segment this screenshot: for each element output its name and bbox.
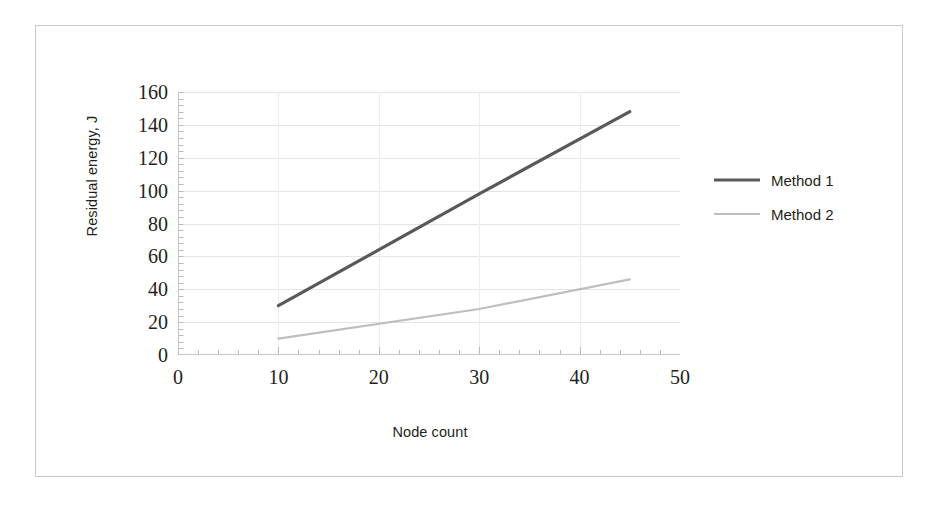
legend-item-label: Method 2 [771, 206, 834, 223]
x-tick-label: 0 [148, 367, 208, 387]
x-tick-label: 20 [349, 367, 409, 387]
legend-item-label: Method 1 [771, 172, 834, 189]
legend-item-2[interactable]: Method 2 [714, 197, 894, 231]
chart-figure: Residual energy, J 160140120100806040200… [0, 0, 944, 506]
x-tick-label: 10 [248, 367, 308, 387]
chart-legend: Method 1Method 2 [714, 163, 894, 231]
legend-item-1[interactable]: Method 1 [714, 163, 894, 197]
x-axis-title: Node count [179, 424, 681, 440]
x-tick-label: 40 [550, 367, 610, 387]
legend-line-swatch [714, 174, 760, 186]
x-tick-label: 30 [449, 367, 509, 387]
legend-line-swatch [714, 208, 760, 220]
x-tick-label: 50 [650, 367, 710, 387]
